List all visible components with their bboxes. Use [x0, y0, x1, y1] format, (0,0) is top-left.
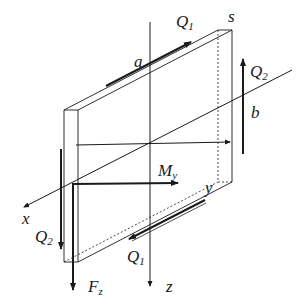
- label-my: My: [158, 162, 177, 181]
- diagram-canvas: [0, 0, 308, 308]
- label-s: s: [228, 8, 235, 25]
- q1-top-arrow: [106, 42, 191, 86]
- y-axis: [76, 142, 230, 145]
- label-q2-right: Q2: [250, 63, 268, 82]
- q1-bottom-arrow: [129, 200, 205, 239]
- my-arrow: [72, 183, 178, 184]
- label-y: y: [205, 179, 213, 196]
- label-q1-top: Q1: [176, 13, 194, 32]
- q1-bottom-arrow-shadow: [132, 203, 206, 241]
- label-q2-left: Q2: [35, 228, 53, 247]
- label-q1-bottom: Q1: [127, 248, 145, 267]
- plate-diagram: a s b y x z Q1 Q2 Q2 Q1 My Fz: [0, 0, 308, 308]
- label-x: x: [22, 210, 30, 227]
- label-fz: Fz: [88, 278, 103, 297]
- label-z: z: [166, 278, 173, 295]
- label-a: a: [134, 53, 143, 70]
- label-b: b: [251, 104, 260, 121]
